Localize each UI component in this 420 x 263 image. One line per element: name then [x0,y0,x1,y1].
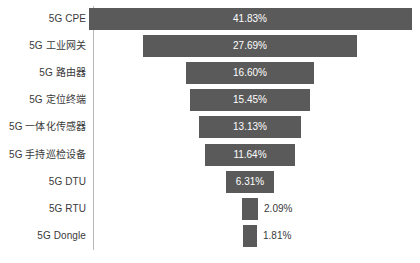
bar-value-label: 2.09% [264,198,292,220]
bar-value-label: 11.64% [205,144,295,166]
chart-row: 5G DTU 6.31% [0,169,420,195]
chart-row: 5G CPE 41.83% [0,6,420,32]
bar-value-label: 6.31% [226,171,275,193]
funnel-chart: 5G CPE 41.83% 5G 工业网关 27.69% 5G 路由器 16.6… [0,0,420,263]
category-label: 5G 一体化传感器 [0,114,86,140]
plot-area: 5G CPE 41.83% 5G 工业网关 27.69% 5G 路由器 16.6… [0,0,420,263]
funnel-bar[interactable] [242,198,258,220]
chart-row: 5G RTU 2.09% [0,196,420,222]
bar-value-label: 13.13% [199,116,300,138]
chart-row: 5G 路由器 16.60% [0,60,420,86]
category-label: 5G 定位终端 [0,87,86,113]
bar-value-label: 27.69% [143,35,357,57]
category-label: 5G 手持巡检设备 [0,142,86,168]
category-label: 5G Dongle [0,223,86,249]
category-label: 5G 工业网关 [0,33,86,59]
chart-row: 5G 工业网关 27.69% [0,33,420,59]
bar-value-label: 15.45% [190,89,309,111]
bar-value-label: 1.81% [263,225,291,247]
funnel-bar[interactable] [243,225,257,247]
chart-row: 5G Dongle 1.81% [0,223,420,249]
bar-value-label: 16.60% [186,62,314,84]
chart-row: 5G 定位终端 15.45% [0,87,420,113]
bar-value-label: 41.83% [89,8,412,30]
category-label: 5G DTU [0,169,86,195]
chart-row: 5G 手持巡检设备 11.64% [0,142,420,168]
category-label: 5G RTU [0,196,86,222]
category-label: 5G CPE [0,6,86,32]
category-label: 5G 路由器 [0,60,86,86]
chart-row: 5G 一体化传感器 13.13% [0,114,420,140]
